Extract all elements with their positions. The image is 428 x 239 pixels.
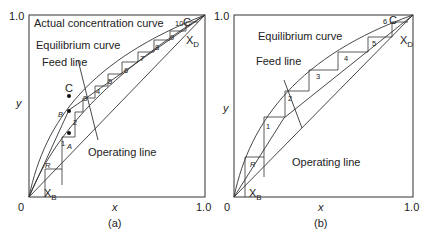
equilibrium-curve-label-a: Equilibrium curve (36, 39, 120, 51)
stage-label-7: 7 (140, 54, 144, 63)
stage-label-b-2: 2 (288, 94, 292, 103)
panel-a: Actual concentration curve Equilibrium c… (9, 10, 211, 229)
stage-label-5: 5 (108, 77, 112, 86)
stage-label-b-5: 5 (372, 39, 376, 48)
point-c-top-label-a: C (183, 16, 191, 28)
actual-curve-label: Actual concentration curve (34, 17, 164, 29)
reboiler-label-a: R (45, 161, 51, 170)
x-d-label-b: XD (400, 34, 413, 49)
point-b-marker (67, 109, 71, 113)
mccabe-thiele-diagram: Actual concentration curve Equilibrium c… (0, 0, 428, 239)
x-b-label-a: XB (44, 187, 57, 202)
x-axis-label-a: x (111, 201, 118, 213)
stage-label-9: 9 (170, 33, 174, 42)
x-d-label-a: XD (186, 34, 199, 49)
point-a-label: A (66, 142, 72, 151)
feed-line-label-b: Feed line (256, 55, 301, 67)
stage-label-8: 8 (155, 43, 159, 52)
operating-line-label-b: Operating line (292, 156, 361, 168)
stage-label-3: 3 (83, 94, 87, 103)
feed-line-label-a: Feed line (42, 56, 87, 68)
caption-a: (a) (108, 217, 121, 229)
point-c-top-label-b: C (389, 14, 397, 26)
equilibrium-curve-label-b: Equilibrium curve (258, 30, 342, 42)
y-axis-label-a: y (15, 97, 23, 109)
point-a-marker (67, 131, 71, 135)
point-c-marker (67, 94, 71, 98)
x-b-label-b: XB (249, 187, 262, 202)
x-max-tick-a: 1.0 (196, 201, 211, 213)
y-max-tick-a: 1.0 (9, 10, 24, 22)
x-max-tick-b: 1.0 (404, 201, 419, 213)
y-max-tick-b: 1.0 (214, 10, 229, 22)
point-b-label: B (58, 110, 63, 119)
reboiler-label-b: R (250, 160, 256, 169)
stage-label-b-6: 6 (383, 17, 387, 26)
stage-steps-b (245, 22, 408, 157)
origin-label-a: 0 (18, 201, 24, 213)
stage-label-6: 6 (124, 66, 128, 75)
y-axis-label-b: y (222, 102, 230, 114)
stage-label-2: 2 (73, 118, 77, 127)
stage-label-b-1: 1 (266, 122, 270, 131)
feed-line-b (284, 80, 302, 128)
origin-label-b: 0 (224, 201, 230, 213)
x-axis-label-b: x (317, 201, 324, 213)
diagonal-line-b (234, 15, 413, 197)
stage-label-b-3: 3 (316, 72, 320, 81)
point-c-label: C (65, 82, 73, 94)
stage-label-1: 1 (61, 139, 65, 148)
panel-b: Equilibrium curve Feed line Operating li… (214, 10, 419, 229)
stage-label-b-4: 4 (344, 54, 348, 63)
caption-b: (b) (314, 217, 327, 229)
stage-label-4: 4 (96, 87, 100, 96)
operating-line-label-a: Operating line (88, 146, 157, 158)
